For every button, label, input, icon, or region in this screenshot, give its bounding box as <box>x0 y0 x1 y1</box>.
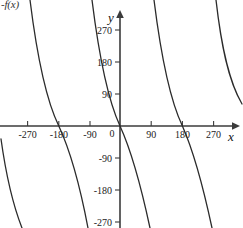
x-tick-label: -90 <box>83 129 96 140</box>
y-tick-label: -90 <box>99 153 112 164</box>
x-axis-label: x <box>227 129 234 144</box>
x-tick-label-origin: 0 <box>110 128 115 139</box>
x-tick-label: -180 <box>50 129 68 140</box>
curve-branch <box>154 0 212 228</box>
x-tick-label: 90 <box>146 129 156 140</box>
chart-svg: -270 -180 -90 0 90 180 270 270 180 90 -9… <box>0 0 243 228</box>
x-tick-label: 270 <box>206 129 221 140</box>
y-tick-label: -270 <box>94 217 112 228</box>
y-tick-label: 270 <box>97 25 112 36</box>
chart-container: -f(x) -270 -180 -90 0 <box>0 0 243 228</box>
x-tick-label: -270 <box>18 129 36 140</box>
curve-branch <box>1 139 22 228</box>
y-tick-label: 180 <box>97 57 112 68</box>
y-tick-label: -180 <box>94 185 112 196</box>
y-axis-arrow <box>116 10 124 18</box>
y-axis-label: y <box>106 10 114 25</box>
curve-branch <box>30 0 88 228</box>
curve-branch <box>216 0 242 104</box>
curve-group <box>1 0 242 228</box>
